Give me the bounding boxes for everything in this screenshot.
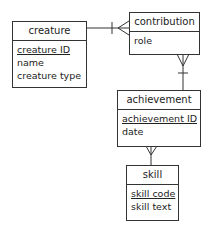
attribute: skill text bbox=[131, 200, 174, 213]
relationship-achievement-skill bbox=[146, 146, 157, 165]
attribute: name bbox=[17, 56, 82, 69]
attribute: date bbox=[122, 125, 196, 138]
entity-creature: creature creature ID name creature type bbox=[12, 21, 87, 88]
attribute-primary-key: skill code bbox=[131, 187, 174, 200]
relationship-contribution-achievement bbox=[177, 54, 189, 90]
entity-title: achievement bbox=[118, 91, 200, 110]
entity-contribution: contribution role bbox=[129, 12, 200, 55]
entity-title: contribution bbox=[130, 13, 199, 32]
attribute-primary-key: achievement ID bbox=[122, 112, 196, 125]
entity-title: skill bbox=[127, 166, 178, 185]
entity-achievement: achievement achievement ID date bbox=[117, 90, 201, 147]
attribute-primary-key: creature ID bbox=[17, 43, 82, 56]
entity-skill: skill skill code skill text bbox=[126, 165, 179, 221]
attribute: role bbox=[134, 34, 195, 47]
relationship-creature-contribution bbox=[86, 21, 129, 35]
attribute: creature type bbox=[17, 69, 82, 82]
entity-title: creature bbox=[13, 22, 86, 41]
